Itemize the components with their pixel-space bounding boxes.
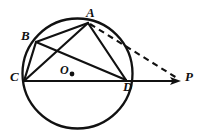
figure-canvas: [0, 0, 204, 134]
center-dot: [70, 72, 75, 77]
point-label-p: P: [185, 70, 193, 83]
point-label-a: A: [86, 6, 95, 19]
circle-outline: [23, 19, 133, 129]
point-label-d: D: [123, 80, 132, 93]
center-label-o: O: [60, 64, 69, 76]
geometry-figure: A B C D P O: [0, 0, 204, 134]
point-label-b: B: [21, 29, 30, 42]
point-label-c: C: [10, 70, 19, 83]
chord-AB: [36, 23, 88, 42]
